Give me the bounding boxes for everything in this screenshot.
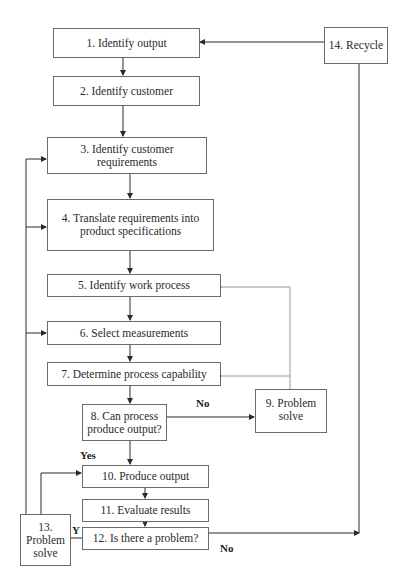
- node-label-line1: 9. Problem: [266, 397, 316, 410]
- node-label-line1: 4. Translate requirements into: [62, 212, 199, 225]
- node-13-problem-solve: 13. Problem solve: [20, 514, 71, 566]
- node-label-line1: 13.: [38, 521, 52, 534]
- node-label-line2: produce output?: [87, 423, 161, 436]
- node-label: 2. Identify customer: [80, 85, 173, 98]
- node-4-translate-requirements: 4. Translate requirements into product s…: [47, 199, 214, 251]
- node-10-produce-output: 10. Produce output: [82, 465, 209, 488]
- edge-label-no-12-14: No: [220, 542, 233, 554]
- node-14-recycle: 14. Recycle: [324, 27, 388, 64]
- edge-label-yes-8-10: Yes: [80, 449, 96, 461]
- edge-13-loop-left: [26, 159, 46, 514]
- edge-label-y-12-13: Y: [72, 524, 80, 536]
- node-label: 12. Is there a problem?: [93, 532, 199, 545]
- node-label: 1. Identify output: [86, 37, 166, 50]
- node-label-line1: 3. Identify customer: [81, 143, 174, 156]
- edge-label-no-8-9: No: [196, 397, 209, 409]
- node-label-line2: Problem: [26, 534, 65, 547]
- node-label: 14. Recycle: [329, 39, 383, 52]
- node-2-identify-customer: 2. Identify customer: [53, 76, 200, 106]
- node-label-line2: product specifications: [80, 225, 181, 238]
- edge-9-5: [222, 287, 290, 389]
- node-label: 7. Determine process capability: [61, 368, 207, 381]
- node-label-line2: requirements: [97, 156, 157, 169]
- node-5-identify-work-process: 5. Identify work process: [47, 274, 221, 297]
- node-label: 6. Select measurements: [80, 327, 188, 340]
- node-6-select-measurements: 6. Select measurements: [47, 321, 221, 345]
- node-8-can-process-produce-output: 8. Can process produce output?: [82, 404, 167, 441]
- node-7-determine-process-capability: 7. Determine process capability: [47, 362, 221, 386]
- node-label-line1: 8. Can process: [91, 410, 158, 423]
- node-12-is-there-a-problem: 12. Is there a problem?: [82, 527, 209, 550]
- node-label: 10. Produce output: [102, 470, 189, 483]
- node-label-line3: solve: [33, 547, 57, 560]
- node-9-problem-solve: 9. Problem solve: [255, 389, 327, 433]
- node-3-identify-customer-requirements: 3. Identify customer requirements: [47, 137, 207, 174]
- node-1-identify-output: 1. Identify output: [53, 28, 200, 58]
- node-label-line2: solve: [279, 410, 303, 423]
- node-label: 11. Evaluate results: [101, 504, 191, 517]
- node-label: 5. Identify work process: [78, 279, 190, 292]
- edge-13-10: [41, 473, 81, 514]
- node-11-evaluate-results: 11. Evaluate results: [82, 499, 209, 522]
